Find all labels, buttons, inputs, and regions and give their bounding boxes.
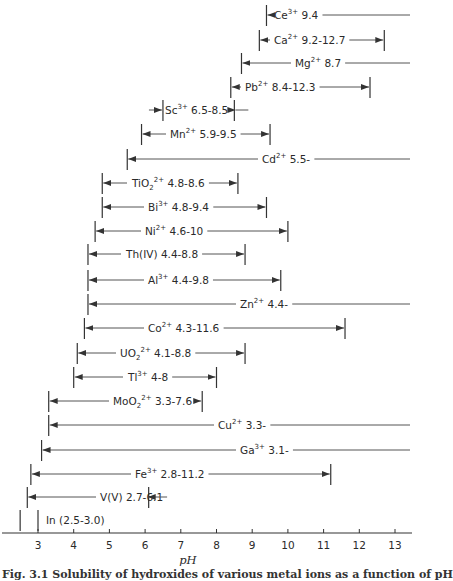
range-label: Ce3+ 9.4 xyxy=(274,8,318,21)
range-label: Zn2+ 4.4- xyxy=(240,297,288,310)
figure-caption: Fig. 3.1 Solubility of hydroxides of var… xyxy=(2,568,453,581)
x-axis: 345678910111213pH xyxy=(2,529,412,567)
x-tick-label: 7 xyxy=(177,539,184,551)
x-tick-label: 4 xyxy=(70,539,77,551)
x-tick-label: 13 xyxy=(388,539,401,551)
range-label: Mn2+ 5.9-9.5 xyxy=(170,127,237,140)
range-bar-tio: TiO22+ 4.8-8.6 xyxy=(102,173,238,194)
range-bar-sc: Sc3+ 6.5-8.5 xyxy=(149,100,248,121)
range-bar-zn: Zn2+ 4.4- xyxy=(88,294,410,315)
x-tick-label: 8 xyxy=(213,539,220,551)
range-bar-cd: Cd2+ 5.5- xyxy=(127,149,410,170)
range-label: In (2.5-3.0) xyxy=(46,514,104,526)
range-bar-co: Co2+ 4.3-11.6 xyxy=(84,318,345,339)
range-bar-mn: Mn2+ 5.9-9.5 xyxy=(142,124,271,145)
range-bar-cu: Cu2+ 3.3- xyxy=(49,415,410,436)
range-label: Al3+ 4.4-9.8 xyxy=(148,273,209,286)
range-bar-uo: UO22+ 4.1-8.8 xyxy=(77,343,245,364)
range-bar-thiv: Th(IV) 4.4-8.8 xyxy=(88,244,245,265)
range-bar-fe: Fe3+ 2.8-11.2 xyxy=(31,464,331,485)
range-bar-tl: Tl3+ 4-8 xyxy=(74,367,217,388)
range-label: Cd2+ 5.5- xyxy=(262,152,310,165)
x-tick-label: 11 xyxy=(317,539,330,551)
range-label: Tl3+ 4-8 xyxy=(127,370,168,383)
range-bar-moo: MoO22+ 3.3-7.6 xyxy=(49,391,203,412)
range-bar-pb: Pb2+ 8.4-12.3 xyxy=(231,77,370,98)
x-axis-title: pH xyxy=(179,553,197,567)
x-tick-label: 12 xyxy=(353,539,366,551)
range-label: MoO22+ 3.3-7.6 xyxy=(113,394,192,410)
x-tick-label: 3 xyxy=(35,539,42,551)
range-label: TiO22+ 4.8-8.6 xyxy=(131,176,205,192)
range-bar-ca: Ca2+ 9.2-12.7 xyxy=(259,30,384,51)
range-bar-bi: Bi3+ 4.8-9.4 xyxy=(102,197,266,218)
range-label: Co2+ 4.3-11.6 xyxy=(148,321,220,334)
range-bar-in: In (2.5-3.0) xyxy=(20,510,104,531)
x-tick-label: 10 xyxy=(281,539,294,551)
range-bar-mg: Mg2+ 8.7 xyxy=(241,53,410,74)
range-label: Pb2+ 8.4-12.3 xyxy=(245,80,316,93)
range-label: Sc3+ 6.5-8.5 xyxy=(165,103,228,116)
range-bars: Ce3+ 9.4Ca2+ 9.2-12.7Mg2+ 8.7Pb2+ 8.4-12… xyxy=(20,5,410,531)
range-label: Ca2+ 9.2-12.7 xyxy=(274,33,345,46)
range-bar-ce: Ce3+ 9.4 xyxy=(266,5,410,26)
range-label: Ni2+ 4.6-10 xyxy=(145,224,203,237)
range-bar-al: Al3+ 4.4-9.8 xyxy=(88,270,281,291)
range-label: Mg2+ 8.7 xyxy=(295,56,341,69)
range-bar-ga: Ga3+ 3.1- xyxy=(42,440,410,461)
range-label: Cu2+ 3.3- xyxy=(218,418,266,431)
x-tick-label: 9 xyxy=(249,539,256,551)
range-bar-vv: V(V) 2.7-6.1 xyxy=(27,487,167,508)
range-label: Th(IV) 4.4-8.8 xyxy=(125,248,198,260)
range-bar-ni: Ni2+ 4.6-10 xyxy=(95,221,288,242)
range-label: UO22+ 4.1-8.8 xyxy=(120,346,191,362)
x-tick-label: 5 xyxy=(106,539,113,551)
x-tick-label: 6 xyxy=(142,539,149,551)
range-label: Ga3+ 3.1- xyxy=(240,443,289,456)
range-label: Fe3+ 2.8-11.2 xyxy=(135,467,204,480)
range-label: Bi3+ 4.8-9.4 xyxy=(148,200,209,213)
